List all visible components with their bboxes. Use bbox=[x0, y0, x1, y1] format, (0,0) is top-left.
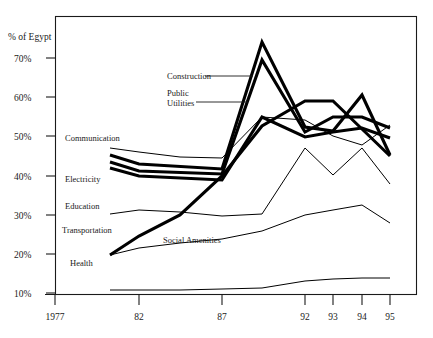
x-axis-ticks bbox=[55, 294, 390, 305]
series-label-education: Education bbox=[65, 201, 100, 211]
x-tick-label-1977: 1977 bbox=[46, 312, 65, 322]
series-label-transportation: Transportation bbox=[62, 225, 112, 235]
series-line-health bbox=[110, 278, 390, 290]
x-tick-label-94: 94 bbox=[357, 312, 367, 322]
y-tick-label-70: 70% bbox=[14, 54, 32, 64]
y-tick-label-10: 10% bbox=[14, 289, 32, 299]
y-axis-title: % of Egypt bbox=[8, 32, 52, 42]
x-tick-label-82: 82 bbox=[134, 312, 144, 322]
x-tick-label-92: 92 bbox=[300, 312, 310, 322]
x-tick-label-87: 87 bbox=[217, 312, 227, 322]
y-tick-label-40: 40% bbox=[14, 172, 32, 182]
series-label-utilities: Utilities bbox=[167, 98, 194, 108]
series-label-communication: Communication bbox=[65, 133, 121, 143]
x-tick-label-93: 93 bbox=[328, 312, 338, 322]
series-line-education bbox=[110, 148, 390, 216]
y-axis-ticks bbox=[46, 58, 56, 293]
series-label-electricity: Electricity bbox=[65, 174, 101, 184]
y-tick-label-30: 30% bbox=[14, 211, 32, 221]
y-tick-label-60: 60% bbox=[14, 93, 32, 103]
y-tick-label-50: 50% bbox=[14, 132, 32, 142]
series-label-health: Health bbox=[70, 258, 93, 268]
chart-canvas: % of Egypt 70% 60% 50% 40% 30% 20% 10% 1… bbox=[0, 0, 433, 338]
series-label-public: Public bbox=[167, 88, 189, 98]
x-tick-label-95: 95 bbox=[385, 312, 395, 322]
series-line-construction bbox=[110, 42, 390, 169]
line-chart-figure: % of Egypt 70% 60% 50% 40% 30% 20% 10% 1… bbox=[0, 0, 433, 338]
y-tick-label-20: 20% bbox=[14, 250, 32, 260]
series-label-social-amenities: Social Amenities bbox=[163, 235, 221, 245]
series-label-construction: Construction bbox=[167, 71, 212, 81]
